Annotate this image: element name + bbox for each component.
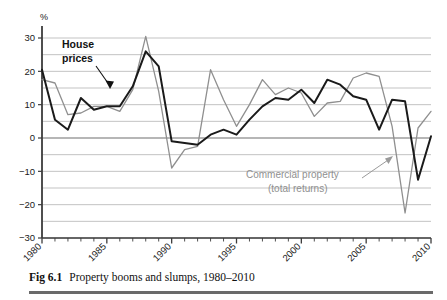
y-tick-group: 3020100−10−20−30 — [19, 32, 42, 243]
chart-plot-area: 3020100−10−20−30 19801985199019952000200… — [0, 0, 447, 266]
line-chart-svg: 3020100−10−20−30 19801985199019952000200… — [0, 0, 447, 266]
caption-row: Fig 6.1 Property booms and slumps, 1980–… — [29, 271, 255, 283]
x-tick-label: 1995 — [215, 241, 238, 264]
house-prices-annotation-line1: House — [62, 38, 94, 50]
caption-underline-rule — [29, 291, 433, 294]
house-prices-annotation-line2: prices — [62, 52, 93, 64]
x-tick-label: 1980 — [21, 241, 44, 264]
y-axis-unit-label: % — [40, 12, 48, 22]
y-tick-label: −10 — [19, 166, 35, 177]
commercial-property-annotation-line2: (total returns) — [268, 183, 327, 194]
commercial-property-annotation-line1: Commercial property — [246, 169, 339, 180]
series-group — [42, 36, 431, 213]
x-tick-label: 1990 — [150, 241, 173, 264]
y-tick-label: 20 — [24, 66, 35, 77]
y-tick-label: −30 — [19, 232, 35, 243]
y-tick-label: 10 — [24, 99, 35, 110]
caption-title-text: Property booms and slumps, 1980–2010 — [69, 271, 255, 283]
y-tick-label: −20 — [19, 199, 35, 210]
x-tick-label: 2005 — [345, 241, 368, 264]
commercial-property-arrow-head — [385, 156, 393, 164]
gridlines-group — [42, 38, 431, 238]
axes-group — [42, 26, 431, 238]
figure-caption-block: Fig 6.1 Property booms and slumps, 1980–… — [0, 266, 447, 300]
x-tick-group: 1980198519901995200020052010 — [21, 238, 433, 263]
y-tick-label: 30 — [24, 32, 35, 43]
caption-figure-number: Fig 6.1 — [29, 271, 62, 283]
x-tick-label: 2010 — [410, 241, 433, 264]
figure-container: 3020100−10−20−30 19801985199019952000200… — [0, 0, 447, 300]
series-line-house-prices — [42, 51, 431, 179]
x-tick-label: 1985 — [86, 241, 109, 264]
y-tick-label: 0 — [30, 132, 35, 143]
x-tick-label: 2000 — [280, 241, 303, 264]
series-line-commercial-property — [42, 36, 431, 213]
